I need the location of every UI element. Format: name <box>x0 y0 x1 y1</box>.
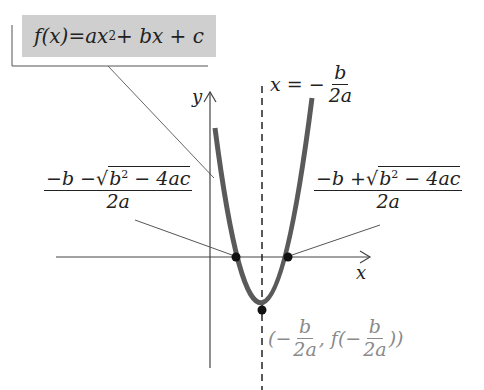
formula-fx: f(x) <box>34 24 68 48</box>
y-axis-label: y <box>192 86 202 107</box>
vertex-den: 2a <box>293 339 316 361</box>
axis-of-symmetry-label: x = − b2a <box>270 62 352 107</box>
root-left-pre: −b − <box>46 167 96 189</box>
vertex-num2: b <box>367 316 383 339</box>
parabola-curve <box>215 98 312 303</box>
vertex-num: b <box>297 316 313 339</box>
vertex-mid: , f(− <box>319 327 361 349</box>
vertex-label: (− b2a , f(− b2a )) <box>268 316 403 361</box>
root-right-den: 2a <box>376 191 399 213</box>
formula-exp: 2 <box>108 29 116 43</box>
root-right-rest: − 4ac <box>398 167 460 189</box>
root-right-label: −b +√b2 − 4ac2a <box>314 168 462 213</box>
formula-eq: = <box>68 24 85 48</box>
vertex-den2: 2a <box>363 339 386 361</box>
axis-num: b <box>332 62 348 85</box>
root-left-point <box>232 253 241 262</box>
root-right-pre: −b + <box>316 167 366 189</box>
vertex-open: (− <box>268 327 291 349</box>
root-left-den: 2a <box>106 191 129 213</box>
root-right-b: b <box>379 167 391 189</box>
x-axis-label: x <box>356 262 366 283</box>
formula-leader-line <box>108 66 214 178</box>
formula-ax: ax <box>85 24 108 48</box>
root-left-label: −b −√b2 − 4ac2a <box>44 168 192 213</box>
formula-box: f(x) = ax2 + bx + c <box>22 15 216 57</box>
root-left-b: b <box>109 167 121 189</box>
root-right-leader <box>292 225 380 255</box>
axis-den: 2a <box>329 85 352 107</box>
axis-lhs: x = − <box>270 73 325 95</box>
vertex-point <box>258 306 267 315</box>
root-left-rest: − 4ac <box>128 167 190 189</box>
formula-rest: + bx + c <box>116 24 204 48</box>
root-left-leader <box>135 220 232 255</box>
root-right-point <box>284 253 293 262</box>
vertex-close: )) <box>389 327 404 349</box>
